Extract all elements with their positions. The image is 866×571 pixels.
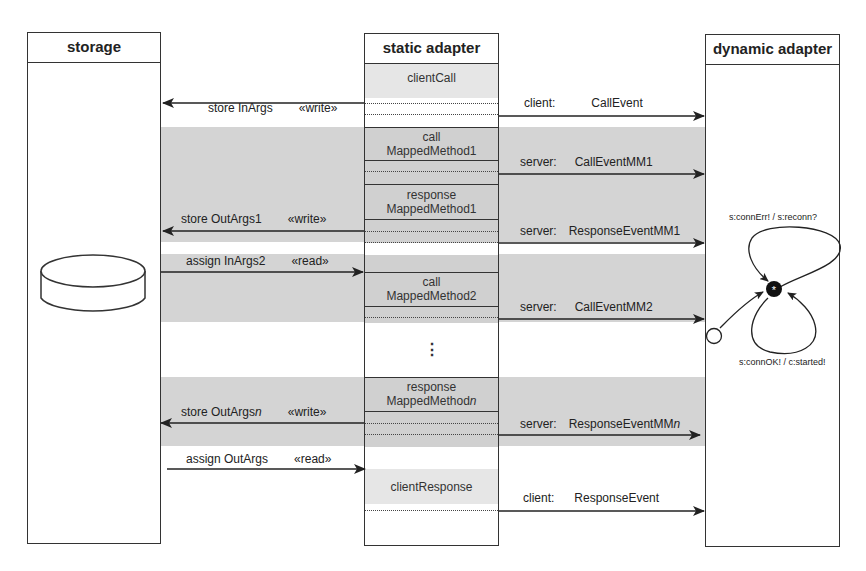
- database-icon: [41, 255, 145, 311]
- state-star-icon: *: [772, 284, 777, 296]
- arrows-layer: *: [0, 0, 866, 571]
- initial-state-icon: [707, 329, 722, 344]
